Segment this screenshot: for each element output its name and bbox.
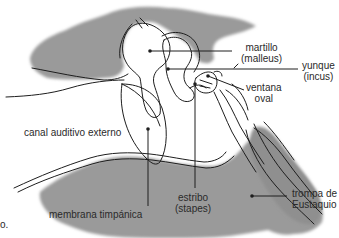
malleus-outline	[123, 23, 170, 117]
label-incus: yunque (incus)	[302, 60, 335, 82]
canal-upper-wall-2	[6, 80, 124, 97]
ear-illustration	[0, 0, 339, 238]
label-eustachian-tube: trompa de Eustaquio	[292, 188, 337, 210]
label-external-auditory-canal: canal auditivo externo	[24, 127, 121, 138]
middle-ear-diagram: martillo (malleus) yunque (incus) ventan…	[0, 0, 339, 238]
label-malleus: martillo (malleus)	[241, 42, 282, 64]
label-oval-window: ventana oval	[246, 82, 282, 104]
oval-window-leader	[208, 76, 244, 90]
label-stapes: estribo (stapes)	[175, 192, 211, 214]
cut-off-text: o.	[0, 219, 8, 230]
label-tympanic-membrane: membrana timpánica	[49, 209, 142, 220]
